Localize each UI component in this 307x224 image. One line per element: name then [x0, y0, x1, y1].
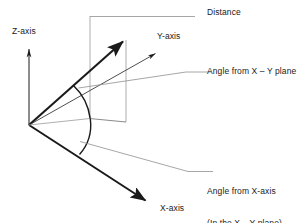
projection-rectangle	[90, 16, 127, 122]
x-axis-label: X-axis	[160, 203, 184, 214]
arc-angle-from-xy-plane	[73, 85, 90, 119]
leader-line-angle-x-axis	[80, 142, 213, 172]
y-axis-line	[29, 54, 156, 126]
angle-from-xy-plane-label: Angle from X – Y plane	[207, 66, 296, 77]
y-axis-label: Y-axis	[157, 31, 180, 42]
angle-from-x-axis-label: Angle from X-axis (In the X – Y plane)	[207, 165, 282, 223]
x-axis-line	[29, 125, 146, 201]
angle-from-x-axis-label-line2: (In the X – Y plane)	[207, 218, 282, 224]
z-axis-label: Z-axis	[12, 26, 36, 37]
distance-label: Distance	[207, 7, 241, 18]
coordinate-system-diagram: Z-axis Y-axis X-axis Distance Angle from…	[0, 0, 307, 223]
arc-angle-from-x-axis	[80, 119, 91, 155]
angle-from-x-axis-label-line1: Angle from X-axis	[207, 186, 282, 197]
